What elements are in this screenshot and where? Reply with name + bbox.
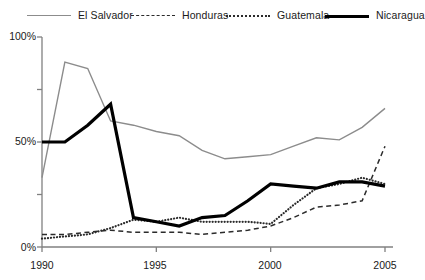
x-tick-label-2005: 2005 — [361, 260, 409, 271]
line-solid-thick-icon — [325, 9, 369, 21]
y-tick-label-0: 0% — [0, 242, 36, 253]
line-dashed-icon — [131, 9, 175, 21]
legend-label: El Salvador — [78, 10, 133, 21]
series-line-guatemala — [42, 178, 385, 239]
chart-legend: El Salvador Honduras Guatemala Nicaragua — [0, 4, 415, 26]
series-line-nicaragua — [42, 104, 385, 226]
legend-label: Honduras — [182, 10, 228, 21]
legend-label: Guatemala — [277, 10, 329, 21]
x-tick-label-1995: 1995 — [131, 260, 179, 271]
legend-item-el-salvador[interactable]: El Salvador — [27, 4, 133, 26]
plot-area: 100% 50% 0% 1990 1995 2000 2005 — [0, 26, 415, 280]
series-layer — [42, 62, 385, 238]
legend-label: Nicaragua — [376, 10, 425, 21]
line-solid-thin-icon — [27, 9, 71, 21]
y-tick-label-100: 100% — [0, 31, 36, 42]
y-tick-label-50: 50% — [0, 136, 36, 147]
legend-item-guatemala[interactable]: Guatemala — [226, 4, 329, 26]
legend-item-nicaragua[interactable]: Nicaragua — [325, 4, 425, 26]
legend-item-honduras[interactable]: Honduras — [131, 4, 228, 26]
chart-canvas — [0, 26, 415, 280]
line-dotted-icon — [226, 9, 270, 21]
x-tick-label-2000: 2000 — [246, 260, 294, 271]
axis-layer — [37, 37, 393, 252]
x-tick-label-1990: 1990 — [18, 260, 66, 271]
